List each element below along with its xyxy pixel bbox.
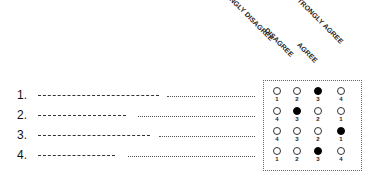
option-value: 3: [311, 156, 325, 163]
leader-dots: [159, 136, 255, 137]
option-value: 2: [290, 96, 304, 103]
question-text-placeholder: [38, 95, 159, 96]
empty-circle-icon[interactable]: [293, 127, 301, 135]
answer-option[interactable]: 1: [270, 87, 284, 103]
option-value: 2: [311, 136, 325, 143]
empty-circle-icon[interactable]: [273, 127, 281, 135]
answer-option[interactable]: 3: [311, 147, 325, 163]
answer-option[interactable]: 3: [311, 87, 325, 103]
question-text-placeholder: [38, 115, 126, 116]
header-strongly-agree: STRONGLY AGREE: [293, 0, 345, 45]
empty-circle-icon[interactable]: [314, 107, 322, 115]
empty-circle-icon[interactable]: [293, 87, 301, 95]
answer-option[interactable]: 4: [334, 147, 348, 163]
filled-circle-icon[interactable]: [314, 147, 322, 155]
answer-option[interactable]: 1: [334, 127, 348, 143]
question-number: 1.: [17, 88, 27, 102]
answer-option[interactable]: 3: [290, 107, 304, 123]
answer-option[interactable]: 4: [270, 127, 284, 143]
answer-option[interactable]: 1: [270, 147, 284, 163]
option-value: 2: [290, 156, 304, 163]
filled-circle-icon[interactable]: [293, 107, 301, 115]
empty-circle-icon[interactable]: [273, 87, 281, 95]
option-value: 1: [334, 116, 348, 123]
question-text-placeholder: [38, 135, 150, 136]
answer-option[interactable]: 2: [311, 107, 325, 123]
leader-dots: [138, 116, 255, 117]
answer-option[interactable]: 2: [311, 127, 325, 143]
option-value: 4: [334, 96, 348, 103]
option-value: 4: [334, 156, 348, 163]
answer-option[interactable]: 2: [290, 87, 304, 103]
filled-circle-icon[interactable]: [314, 87, 322, 95]
option-value: 3: [311, 96, 325, 103]
option-value: 4: [270, 116, 284, 123]
option-value: 1: [270, 96, 284, 103]
question-number: 3.: [17, 128, 27, 142]
empty-circle-icon[interactable]: [337, 87, 345, 95]
option-value: 4: [270, 136, 284, 143]
option-value: 1: [270, 156, 284, 163]
answer-option[interactable]: 3: [290, 127, 304, 143]
question-number: 4.: [17, 148, 27, 162]
empty-circle-icon[interactable]: [273, 107, 281, 115]
option-value: 3: [290, 116, 304, 123]
option-value: 2: [311, 116, 325, 123]
empty-circle-icon[interactable]: [314, 127, 322, 135]
question-text-placeholder: [38, 155, 115, 156]
filled-circle-icon[interactable]: [337, 127, 345, 135]
question-number: 2.: [17, 108, 27, 122]
empty-circle-icon[interactable]: [337, 107, 345, 115]
answer-option[interactable]: 4: [270, 107, 284, 123]
option-value: 1: [334, 136, 348, 143]
header-strongly-disagree: STRONGLY DISAGREE: [214, 0, 274, 42]
empty-circle-icon[interactable]: [273, 147, 281, 155]
empty-circle-icon[interactable]: [293, 147, 301, 155]
header-agree: AGREE: [296, 41, 319, 64]
leader-dots: [167, 96, 255, 97]
header-disagree: DISAGREE: [263, 27, 294, 58]
leader-dots: [128, 156, 255, 157]
answer-option[interactable]: 4: [334, 87, 348, 103]
answer-option[interactable]: 1: [334, 107, 348, 123]
empty-circle-icon[interactable]: [337, 147, 345, 155]
answer-option[interactable]: 2: [290, 147, 304, 163]
option-value: 3: [290, 136, 304, 143]
